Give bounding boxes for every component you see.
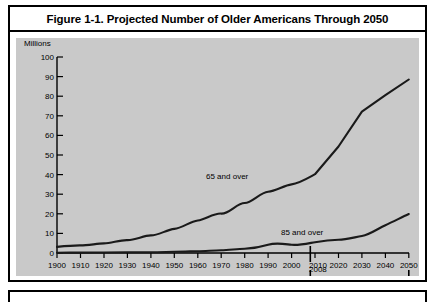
svg-text:2020: 2020 xyxy=(330,261,348,270)
y-axis-tick-labels: 100 90 80 70 60 50 40 30 20 10 0 xyxy=(41,53,55,258)
series-label-85-and-over: 85 and over xyxy=(281,228,323,237)
svg-text:2000: 2000 xyxy=(283,261,301,270)
svg-text:1980: 1980 xyxy=(236,261,254,270)
svg-text:40: 40 xyxy=(45,171,54,180)
x-axis-tick-labels: 1900 1910 1920 1930 1940 1950 1960 1970 … xyxy=(48,261,418,270)
series-line-85-and-over xyxy=(57,214,409,253)
svg-text:1990: 1990 xyxy=(259,261,277,270)
chart-svg: 100 90 80 70 60 50 40 30 20 10 0 xyxy=(16,38,419,276)
x-axis-ticks xyxy=(57,253,409,258)
figure-container: Figure 1-1. Projected Number of Older Am… xyxy=(8,5,427,282)
svg-text:2040: 2040 xyxy=(377,261,395,270)
page-title: Figure 1-1. Projected Number of Older Am… xyxy=(47,13,389,25)
svg-text:50: 50 xyxy=(45,151,54,160)
svg-text:90: 90 xyxy=(45,73,54,82)
figure-root: Figure 1-1. Projected Number of Older Am… xyxy=(0,0,437,302)
svg-text:2050: 2050 xyxy=(400,261,418,270)
svg-text:1940: 1940 xyxy=(142,261,160,270)
svg-text:1970: 1970 xyxy=(212,261,230,270)
chart-plot-area: Millions xyxy=(16,38,419,276)
svg-text:100: 100 xyxy=(41,53,55,62)
series-line-65-and-over xyxy=(57,80,409,247)
svg-text:70: 70 xyxy=(45,112,54,121)
svg-text:60: 60 xyxy=(45,131,54,140)
svg-text:20: 20 xyxy=(45,210,54,219)
svg-text:0: 0 xyxy=(50,249,55,258)
next-section-box xyxy=(8,290,427,302)
svg-text:1950: 1950 xyxy=(165,261,183,270)
svg-text:1900: 1900 xyxy=(48,261,66,270)
figure-title-bar: Figure 1-1. Projected Number of Older Am… xyxy=(10,7,425,32)
svg-text:30: 30 xyxy=(45,190,54,199)
svg-text:1960: 1960 xyxy=(189,261,207,270)
svg-text:2030: 2030 xyxy=(353,261,371,270)
projection-start-label: 2008 xyxy=(309,265,327,274)
svg-text:80: 80 xyxy=(45,92,54,101)
svg-text:1920: 1920 xyxy=(95,261,113,270)
svg-text:1910: 1910 xyxy=(72,261,90,270)
svg-text:10: 10 xyxy=(45,229,54,238)
svg-text:1930: 1930 xyxy=(119,261,137,270)
y-axis-ticks xyxy=(57,57,63,253)
series-label-65-and-over: 65 and over xyxy=(206,172,248,181)
